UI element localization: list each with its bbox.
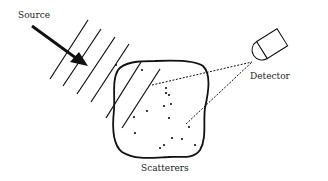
wavefront-line <box>77 37 115 94</box>
scattered-ray-lower <box>186 62 252 124</box>
scatterer-dot <box>168 117 170 119</box>
scatterer-dot <box>146 110 148 112</box>
scatterer-dot <box>181 138 183 140</box>
wavefront-lines <box>50 20 160 128</box>
wavefront-line <box>91 44 129 102</box>
scatterer-dot <box>141 69 143 71</box>
wavefront-line <box>63 29 101 86</box>
scatterer-dot <box>163 144 165 146</box>
wavefront-line <box>122 69 160 128</box>
wavefront-line <box>50 20 88 79</box>
detector-label: Detector <box>250 71 291 81</box>
scatterer-dot <box>170 103 172 105</box>
scatterer-dot <box>165 92 167 94</box>
scatterer-dot <box>159 147 161 149</box>
scatterer-dot <box>194 144 196 146</box>
detector-icon <box>248 29 287 64</box>
scatterer-dot <box>133 116 135 118</box>
scatterer-dot <box>171 137 173 139</box>
scattering-diagram: Source Detector Scatterers <box>0 0 328 181</box>
scatterer-dot <box>165 87 167 89</box>
source-label: Source <box>18 10 50 20</box>
scatterer-dot <box>163 105 165 107</box>
scatterer-dot <box>134 132 136 134</box>
scatterer-dot <box>188 126 190 128</box>
scatterer-dot <box>168 94 170 96</box>
scatterers-label: Scatterers <box>141 163 189 173</box>
scatterer-dot <box>115 64 117 66</box>
